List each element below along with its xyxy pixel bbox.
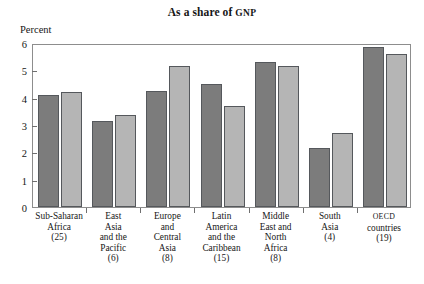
x-category-label-line: Asia	[86, 222, 140, 233]
bar	[363, 47, 384, 207]
x-category-label: LatinAmericaand theCaribbean(15)	[194, 211, 248, 264]
y-tick-label: 4	[1, 93, 27, 104]
bar	[386, 54, 407, 207]
x-axis-separator-tick	[140, 208, 141, 213]
y-axis-label: Percent	[20, 24, 52, 35]
chart-title-acronym: GNP	[235, 8, 256, 18]
y-tick-mark	[32, 181, 37, 182]
x-category-label-line: countries	[357, 223, 411, 234]
bars-container	[33, 45, 410, 207]
y-tick-label: 0	[1, 203, 27, 214]
x-category-label-line: Africa	[249, 243, 303, 254]
x-category-label-line: Middle	[249, 211, 303, 222]
x-category-label-line: Latin	[194, 211, 248, 222]
bar	[224, 106, 245, 207]
x-category-label: OECDcountries(19)	[357, 211, 411, 244]
x-category-label-line: (8)	[249, 253, 303, 264]
x-category-label-line: South	[303, 211, 357, 222]
x-category-label-line: (6)	[86, 253, 140, 264]
bar	[169, 66, 190, 207]
x-category-label-line: OECD	[373, 212, 395, 221]
y-tick-label: 3	[1, 121, 27, 132]
x-category-label-line: Pacific	[86, 243, 140, 254]
y-tick-label: 2	[1, 148, 27, 159]
y-tick-label: 1	[1, 175, 27, 186]
chart-title-main: As a share of	[168, 6, 236, 18]
y-tick-label: 5	[1, 66, 27, 77]
x-axis-separator-tick	[86, 208, 87, 213]
x-category-label-line: (15)	[194, 253, 248, 264]
x-category-label-line: and the	[86, 232, 140, 243]
x-axis-separator-tick	[357, 208, 358, 213]
x-category-label-line: (8)	[140, 253, 194, 264]
x-category-label-line: America	[194, 222, 248, 233]
x-category-label-line: Central	[140, 232, 194, 243]
x-category-label: EuropeandCentralAsia(8)	[140, 211, 194, 264]
x-category-label-line: North	[249, 232, 303, 243]
x-category-label-line: and	[140, 222, 194, 233]
bar	[255, 62, 276, 207]
x-category-label-line: (4)	[303, 232, 357, 243]
y-tick-mark	[32, 71, 37, 72]
x-category-label-line: OECD	[357, 211, 411, 223]
x-category-label-line: Europe	[140, 211, 194, 222]
y-tick-mark	[32, 99, 37, 100]
x-category-label-line: Caribbean	[194, 243, 248, 254]
bar	[309, 148, 330, 207]
x-category-label-line: East and	[249, 222, 303, 233]
bar	[278, 66, 299, 207]
x-category-label-line: (25)	[32, 232, 86, 243]
x-category-label: Sub-SaharanAfrica(25)	[32, 211, 86, 243]
x-category-label-line: Asia	[303, 222, 357, 233]
bar	[201, 84, 222, 207]
y-tick-mark	[32, 153, 37, 154]
plot-area	[32, 44, 411, 208]
chart-title: As a share of GNP	[0, 6, 424, 18]
x-category-label-line: Asia	[140, 243, 194, 254]
x-category-label-line: East	[86, 211, 140, 222]
x-axis-separator-tick	[303, 208, 304, 213]
bar	[38, 95, 59, 207]
y-tick-mark	[32, 126, 37, 127]
x-category-label-line: Africa	[32, 222, 86, 233]
x-category-label: EastAsiaand thePacific(6)	[86, 211, 140, 264]
bar	[61, 92, 82, 207]
bar	[92, 121, 113, 207]
bar	[146, 91, 167, 207]
x-category-label-line: (19)	[357, 233, 411, 244]
chart-page: As a share of GNP Percent Sub-SaharanAfr…	[0, 0, 424, 284]
x-category-label-line: Sub-Saharan	[32, 211, 86, 222]
bar	[332, 133, 353, 207]
x-category-label: MiddleEast andNorthAfrica(8)	[249, 211, 303, 264]
x-category-label-line: and the	[194, 232, 248, 243]
x-axis-separator-tick	[194, 208, 195, 213]
bar	[115, 115, 136, 207]
y-tick-label: 6	[1, 39, 27, 50]
x-category-label: SouthAsia(4)	[303, 211, 357, 243]
x-axis-separator-tick	[249, 208, 250, 213]
